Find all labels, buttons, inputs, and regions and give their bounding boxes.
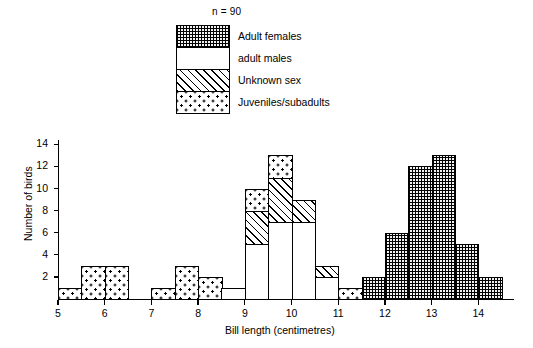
bar-segment — [245, 189, 270, 212]
legend-item-label: Adult females — [238, 25, 330, 47]
y-tick-label: 4 — [28, 248, 48, 260]
legend-item-label: Juveniles/subadults — [238, 91, 330, 113]
x-tick — [197, 300, 198, 305]
x-tick — [338, 300, 339, 305]
legend-item-label: adult males — [238, 47, 330, 69]
x-axis-title: Bill length (centimetres) — [20, 324, 533, 336]
y-tick — [54, 166, 58, 167]
x-tick — [431, 300, 432, 305]
bar-segment — [198, 277, 223, 300]
x-tick-label: 14 — [468, 307, 488, 319]
bar-segment — [408, 166, 433, 300]
bar-segment — [362, 277, 387, 300]
bar-segment — [315, 266, 340, 278]
legend-swatch-stack — [176, 25, 230, 114]
bar-segment — [268, 155, 293, 178]
bar-segment — [105, 266, 130, 300]
bar-segment — [268, 222, 293, 301]
y-tick-label: 14 — [28, 137, 48, 149]
legend-label-list: Adult femalesadult malesUnknown sexJuven… — [238, 25, 330, 113]
x-tick — [291, 300, 292, 305]
y-tick — [54, 276, 58, 277]
bar-segment — [245, 211, 270, 245]
bar-segment — [175, 266, 200, 300]
bar-segment — [315, 277, 340, 300]
bar-segment — [81, 266, 106, 300]
x-tick-label: 6 — [95, 307, 115, 319]
y-tick — [54, 144, 58, 145]
y-axis-title: Number of birds — [22, 166, 34, 241]
bar-segment — [292, 200, 317, 223]
bar-segment — [292, 222, 317, 301]
x-tick — [104, 300, 105, 305]
y-axis-line — [58, 140, 59, 299]
y-tick — [54, 254, 58, 255]
bar-segment — [245, 244, 270, 300]
white-swatch-icon — [177, 48, 229, 70]
x-tick-label: 8 — [188, 307, 208, 319]
x-tick — [151, 300, 152, 305]
bar-segment — [58, 288, 83, 300]
x-tick — [478, 300, 479, 305]
dots-swatch-icon — [177, 92, 229, 113]
bar-segment — [455, 244, 480, 300]
y-tick — [54, 232, 58, 233]
x-tick — [57, 300, 58, 305]
x-tick-label: 9 — [235, 307, 255, 319]
bar-segment — [221, 288, 246, 300]
bar-segment — [385, 233, 410, 301]
y-tick — [54, 210, 58, 211]
y-tick-label: 2 — [28, 270, 48, 282]
y-tick — [54, 188, 58, 189]
bar-segment — [478, 277, 503, 300]
histogram-chart: n = 90 Adult femalesadult malesUnknown s… — [0, 0, 533, 348]
bar-segment — [268, 177, 293, 222]
diagonal-swatch-icon — [177, 70, 229, 92]
x-tick-label: 12 — [375, 307, 395, 319]
x-tick-label: 7 — [141, 307, 161, 319]
bar-segment — [432, 155, 457, 300]
x-tick-label: 13 — [422, 307, 442, 319]
x-tick-label: 10 — [282, 307, 302, 319]
x-tick — [244, 300, 245, 305]
bar-segment — [338, 288, 363, 300]
legend-item-label: Unknown sex — [238, 69, 330, 91]
x-tick — [384, 300, 385, 305]
x-tick-label: 5 — [48, 307, 68, 319]
x-tick-label: 11 — [328, 307, 348, 319]
crosshatch-swatch-icon — [177, 26, 229, 48]
sample-size-label: n = 90 — [212, 6, 241, 17]
bar-segment — [151, 288, 176, 300]
